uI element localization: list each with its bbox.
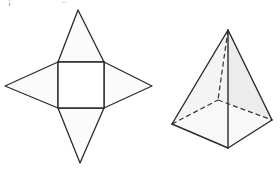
net-triangle-left bbox=[5, 62, 58, 108]
square-pyramid-solid-figure bbox=[172, 30, 272, 148]
net-square-base bbox=[58, 62, 104, 108]
net-triangle-right bbox=[104, 62, 152, 108]
clipped-text-fragment-2: .. bbox=[62, 0, 67, 5]
clipped-text-fragment-3: ¨ bbox=[92, 0, 95, 5]
geometry-illustration bbox=[0, 0, 280, 170]
net-triangle-bottom bbox=[58, 108, 104, 163]
square-pyramid-net-figure bbox=[5, 10, 152, 163]
figure-canvas: ¡ .. ¨ bbox=[0, 0, 280, 170]
net-triangle-top bbox=[58, 10, 104, 62]
clipped-text-fragment-1: ¡ bbox=[8, 0, 11, 6]
